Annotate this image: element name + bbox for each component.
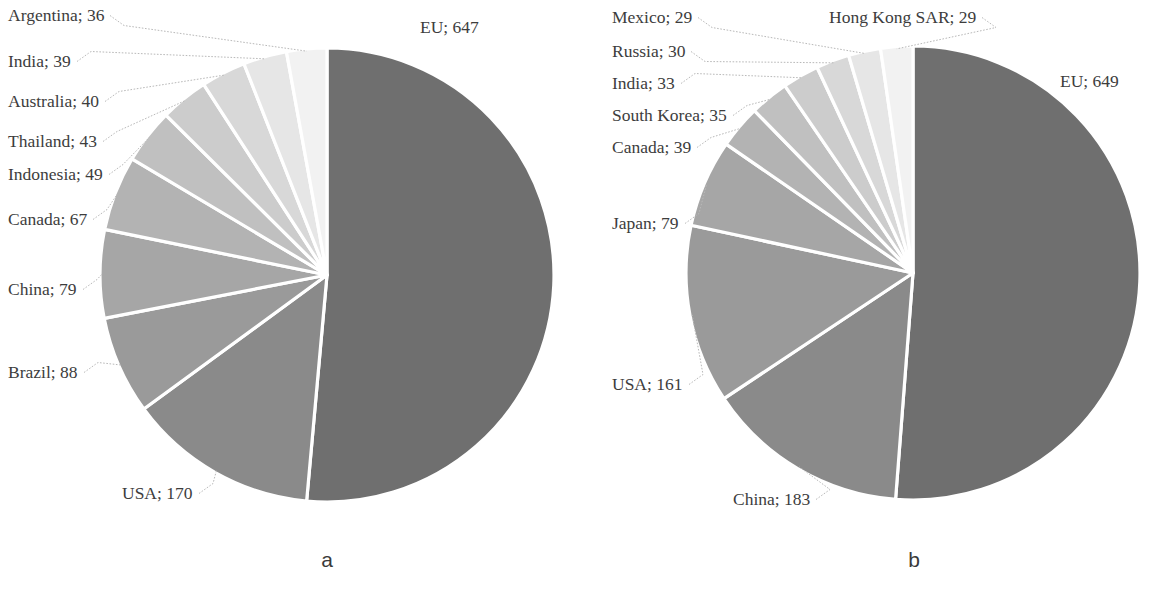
slice-label: Thailand; 43 [8,132,97,151]
slice-label: USA; 170 [122,484,193,503]
panel-b [587,0,1174,608]
slice-label: South Korea; 35 [612,106,727,125]
panel-a-caption: a [297,548,357,572]
slice-label: EU; 647 [420,18,479,37]
slice-label: Japan; 79 [612,214,679,233]
slice-label: Canada; 39 [612,138,691,157]
pie-slice [896,46,1140,500]
slice-label: Canada; 67 [8,210,87,229]
slice-label: Mexico; 29 [612,8,692,27]
pie-b-graphic [587,0,1174,608]
slice-label: EU; 649 [1060,72,1119,91]
slice-label: China; 79 [8,280,77,299]
slice-label: Russia; 30 [612,42,685,61]
slice-label: Australia; 40 [8,92,99,111]
slice-label: Hong Kong SAR; 29 [829,8,976,27]
slice-label: USA; 161 [612,375,683,394]
slice-label: Argentina; 36 [8,6,104,25]
slice-label: Brazil; 88 [8,363,78,382]
slice-label: India; 33 [612,74,675,93]
panel-b-caption: b [884,548,944,572]
slice-label: China; 183 [733,490,810,509]
slice-label: Indonesia; 49 [8,165,103,184]
slice-label: India; 39 [8,52,71,71]
pie-chart-figure: Argentina; 36India; 39Australia; 40Thail… [0,0,1174,608]
pie-slice [307,48,554,502]
